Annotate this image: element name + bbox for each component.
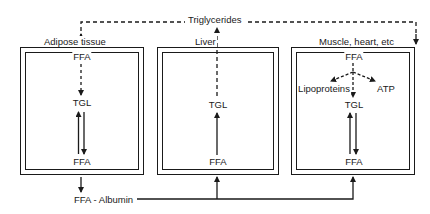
liver-inner-box (162, 52, 274, 170)
triglycerides-label: Triglycerides (187, 14, 243, 25)
adipose-tgl: TGL (72, 97, 92, 108)
adipose-ffa-top: FFA (72, 51, 91, 62)
muscle-inner-box (296, 52, 410, 170)
ffa-albumin-label: FFA - Albumin (73, 194, 134, 205)
muscle-atp: ATP (376, 83, 396, 94)
muscle-ffa-top: FFA (344, 51, 363, 62)
adipose-label: Adipose tissue (43, 36, 107, 47)
muscle-lipoproteins: Lipoproteins (297, 83, 351, 94)
liver-tgl: TGL (208, 99, 228, 110)
liver-ffa: FFA (208, 156, 227, 167)
liver-label: Liver (194, 36, 217, 47)
adipose-inner-box (25, 52, 139, 170)
muscle-label: Muscle, heart, etc (318, 36, 395, 47)
adipose-ffa-bottom: FFA (72, 156, 91, 167)
muscle-ffa-bottom: FFA (344, 156, 363, 167)
muscle-tgl: TGL (344, 99, 364, 110)
